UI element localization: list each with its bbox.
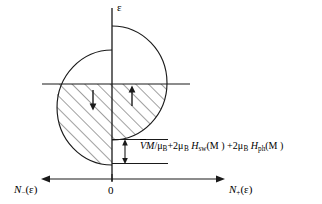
v-tilde-group: V <box>140 141 146 151</box>
minority-dos-axis-label: N−(ε) <box>14 184 37 195</box>
bohr-magneton-3-sub: B <box>244 145 249 153</box>
majority-dos-subscript: + <box>236 189 240 197</box>
origin-label: 0 <box>108 185 114 196</box>
bohr-magneton-1-sub: B <box>163 145 168 153</box>
bohr-magneton-1: μ <box>157 140 162 151</box>
dos-axis <box>41 174 225 182</box>
field-symbol-ph-sub: ph <box>258 145 265 153</box>
field-symbol-ph: H <box>251 140 258 151</box>
majority-dos-arg: (ε) <box>240 183 252 195</box>
bohr-magneton-2-sub: B <box>184 145 189 153</box>
dos-axis-arrow-right <box>216 176 225 183</box>
dos-figure: ε 0 N−(ε) N+(ε) VM/μB+2μB Hsw(M ) +2μB H… <box>0 0 322 204</box>
majority-dos-axis-label: N+(ε) <box>229 184 252 195</box>
potential-symbol: V <box>140 140 146 151</box>
dos-axis-arrow-left <box>41 176 50 183</box>
plus-term-2: +2 <box>227 140 238 151</box>
field-symbol-sw-sub: sw <box>198 145 206 153</box>
splitting-arrow-head-up <box>122 139 128 145</box>
occupied-states-minority-hatch <box>40 80 120 175</box>
field-sw-arg: (M ) <box>206 140 224 151</box>
minority-dos-arg: (ε) <box>25 183 37 195</box>
tilde-overbar <box>140 139 146 140</box>
plus-term-1: +2 <box>167 140 178 151</box>
field-ph-arg: (M ) <box>265 140 283 151</box>
energy-axis-label: ε <box>117 2 122 13</box>
bohr-magneton-3: μ <box>238 140 244 151</box>
minority-dos-subscript: − <box>21 189 25 197</box>
splitting-formula-label: VM/μB+2μB Hsw(M ) +2μB Hph(M ) <box>140 141 283 151</box>
figure-canvas <box>0 0 322 204</box>
